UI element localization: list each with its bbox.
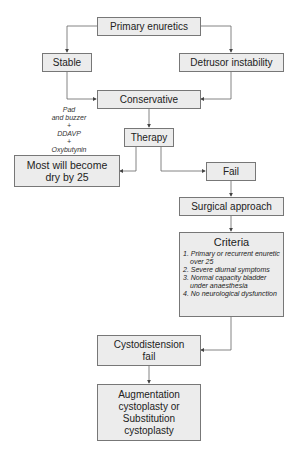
note-line: DDAVP (44, 130, 94, 138)
node-label: Most will become (27, 159, 108, 171)
criteria-list: 1. Primary or recurrent enuretic over 25… (180, 250, 283, 298)
node-augmentation-cystoplasty: Augmentation cystoplasty or Substitution… (97, 384, 201, 441)
node-criteria: Criteria 1. Primary or recurrent enureti… (179, 232, 284, 317)
criteria-item: 4. No neurological dysfunction (183, 290, 283, 298)
node-label: Primary enuretics (110, 21, 188, 33)
node-cystodistension-fail: Cystodistension fail (97, 335, 201, 366)
therapy-note: Pad and buzzer + DDAVP + Oxybutynin (44, 106, 94, 154)
node-label: fail (143, 351, 156, 363)
node-conservative: Conservative (97, 90, 201, 109)
node-therapy: Therapy (124, 128, 174, 147)
note-line: + (44, 122, 94, 130)
criteria-item: 2. Severe diurnal symptoms (183, 266, 283, 274)
node-fail: Fail (206, 162, 256, 181)
node-primary-enuretics: Primary enuretics (97, 17, 201, 36)
note-line: and buzzer (44, 114, 94, 122)
note-line: Pad (44, 106, 94, 114)
criteria-title: Criteria (214, 236, 249, 249)
node-label: Conservative (120, 94, 178, 106)
node-surgical-approach: Surgical approach (179, 197, 284, 216)
node-label: Substitution (123, 413, 175, 425)
node-label: cystoplasty or (118, 401, 179, 413)
criteria-item: 3. Normal capacity bladder under anaesth… (183, 274, 283, 290)
node-label: Cystodistension (114, 339, 185, 351)
node-label: Fail (223, 166, 239, 178)
node-label: Surgical approach (191, 201, 272, 213)
criteria-item: 1. Primary or recurrent enuretic over 25 (183, 250, 283, 266)
node-label: dry by 25 (45, 171, 88, 183)
node-label: Detrusor instability (190, 57, 272, 69)
node-label: cystoplasty (124, 425, 173, 437)
note-line: Oxybutynin (44, 146, 94, 154)
node-most-dry: Most will become dry by 25 (14, 155, 120, 187)
note-line: + (44, 138, 94, 146)
node-label: Therapy (131, 132, 168, 144)
node-stable: Stable (42, 53, 92, 72)
node-detrusor-instability: Detrusor instability (179, 53, 284, 72)
node-label: Stable (53, 57, 81, 69)
node-label: Augmentation (118, 389, 180, 401)
